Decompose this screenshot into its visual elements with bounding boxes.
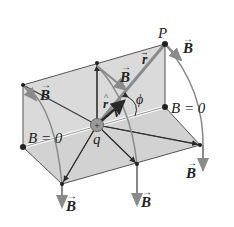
label-b-middle-arrow: → bbox=[121, 61, 131, 72]
label-v-vec-arrow: → bbox=[113, 99, 122, 109]
label-b-zero-left: B = 0 bbox=[28, 130, 63, 146]
corner-dot-upper-middle bbox=[95, 61, 99, 65]
corner-dot-bottom-left bbox=[60, 182, 64, 186]
label-b-bottom-left-arrow: → bbox=[67, 190, 77, 201]
corner-dot-bottom-right bbox=[198, 143, 202, 147]
label-r-vec-arrow: → bbox=[140, 47, 149, 57]
point-below-p-dot bbox=[162, 104, 168, 110]
label-b-zero-right: B = 0 bbox=[171, 100, 206, 116]
corner-dot-bottom-middle bbox=[135, 162, 139, 166]
label-b-arrow-over-p: → bbox=[183, 33, 193, 44]
moving-charge-magnetic-field-diagram: + P B → r → B → ϕ r ^ v → B → B = 0 B = … bbox=[0, 0, 234, 227]
label-phi: ϕ bbox=[136, 92, 143, 107]
charge-plus-sign: + bbox=[94, 120, 100, 131]
label-b-bottom-middle-arrow: → bbox=[142, 186, 152, 197]
left-axis-dot bbox=[20, 144, 26, 150]
label-b-upper-left-arrow: → bbox=[41, 79, 51, 90]
corner-dot-upper-left bbox=[21, 83, 25, 87]
label-q: q bbox=[93, 131, 101, 147]
label-p: P bbox=[157, 25, 167, 41]
b-arrow-at-p bbox=[165, 44, 181, 60]
label-b-bottom-right-arrow: → bbox=[187, 157, 197, 168]
point-p-dot bbox=[162, 41, 168, 47]
